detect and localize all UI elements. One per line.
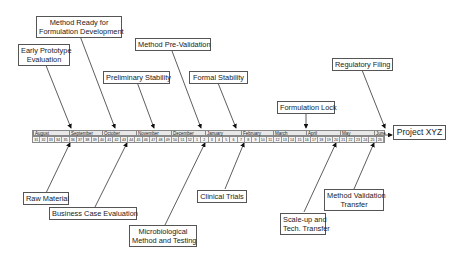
milestone-label: Method Validation [327, 191, 381, 200]
milestone-microbiological-method: Microbiological Method and Testing [129, 225, 197, 247]
milestone-label: Method Ready for [39, 18, 119, 27]
week-cell: 23 [355, 137, 362, 142]
week-cell: 37 [77, 137, 84, 142]
week-cell: 24 [362, 137, 369, 142]
week-cell: 17 [311, 137, 318, 142]
week-cell: 51 [179, 137, 186, 142]
week-cell: 12 [274, 137, 281, 142]
milestone-business-case-evaluation: Business Case Evaluation [49, 207, 137, 220]
week-cell: 46 [143, 137, 150, 142]
week-cell: 50 [172, 137, 179, 142]
milestone-regulatory-filing: Regulatory Filing [332, 58, 393, 71]
milestone-label: Method and Testing [132, 236, 194, 245]
milestone-label: Tech. Transfer [283, 224, 323, 233]
week-cell: 26 [377, 137, 384, 142]
milestone-method-pre-validation: Method Pre-Validation [135, 38, 211, 51]
milestone-label: Regulatory Filing [335, 60, 390, 69]
week-cell: 34 [55, 137, 62, 142]
week-cell: 43 [121, 137, 128, 142]
week-cell: 8 [245, 137, 252, 142]
milestone-label: Scale-up and [283, 215, 323, 224]
milestone-label: Preliminary Stability [106, 73, 167, 82]
week-cell: 21 [340, 137, 347, 142]
week-cell: 31 [33, 137, 40, 142]
milestone-label: Method Pre-Validation [138, 40, 208, 49]
week-row: 3132333435363738394041424344454647484950… [32, 136, 385, 143]
week-cell: 48 [157, 137, 164, 142]
milestone-formal-stability: Formal Stability [189, 71, 248, 84]
week-cell: 3 [209, 137, 216, 142]
milestone-label: Raw Material [26, 194, 66, 203]
milestone-label: Business Case Evaluation [52, 209, 134, 218]
week-cell: 11 [267, 137, 274, 142]
week-cell: 14 [289, 137, 296, 142]
week-cell: 2 [201, 137, 208, 142]
week-cell: 6 [230, 137, 237, 142]
week-cell: 7 [238, 137, 245, 142]
week-cell: 20 [333, 137, 340, 142]
week-cell: 33 [48, 137, 55, 142]
week-cell: 5 [223, 137, 230, 142]
milestone-clinical-trials: Clinical Trials [197, 190, 247, 203]
milestone-label: Early Prototype [21, 46, 67, 55]
week-cell: 39 [92, 137, 99, 142]
week-cell: 19 [326, 137, 333, 142]
milestone-method-validation-transfer: Method Validation Transfer [324, 189, 384, 211]
week-cell: 15 [296, 137, 303, 142]
week-cell: 36 [70, 137, 77, 142]
milestone-early-prototype-evaluation: Early Prototype Evaluation [18, 44, 70, 66]
week-cell: 40 [99, 137, 106, 142]
week-cell: 52 [187, 137, 194, 142]
milestone-label: Clinical Trials [200, 192, 244, 201]
milestone-method-ready: Method Ready for Formulation Development [36, 16, 122, 38]
milestone-preliminary-stability: Preliminary Stability [103, 71, 170, 84]
milestone-label: Transfer [327, 200, 381, 209]
week-cell: 38 [84, 137, 91, 142]
week-cell: 1 [194, 137, 201, 142]
week-cell: 9 [252, 137, 259, 142]
week-cell: 16 [304, 137, 311, 142]
project-label: Project XYZ [393, 125, 446, 140]
week-cell: 45 [135, 137, 142, 142]
milestone-formulation-lock: Formulation Lock [277, 101, 335, 114]
week-cell: 13 [282, 137, 289, 142]
week-cell: 18 [318, 137, 325, 142]
milestone-scale-up: Scale-up and Tech. Transfer [280, 213, 326, 235]
week-cell: 25 [369, 137, 376, 142]
milestone-label: Evaluation [21, 55, 67, 64]
week-cell: 47 [150, 137, 157, 142]
week-cell: 49 [165, 137, 172, 142]
week-cell: 44 [128, 137, 135, 142]
milestone-label: Formulation Lock [280, 103, 332, 112]
milestone-label: Formulation Development [39, 27, 119, 36]
milestone-label: Microbiological [132, 227, 194, 236]
milestone-raw-material: Raw Material [23, 192, 69, 205]
milestone-label: Formal Stability [192, 73, 245, 82]
week-cell: 35 [62, 137, 69, 142]
week-cell: 42 [113, 137, 120, 142]
week-cell: 22 [347, 137, 354, 142]
week-cell: 10 [260, 137, 267, 142]
week-cell: 4 [216, 137, 223, 142]
timeline: August September October November Decemb… [32, 130, 385, 144]
week-cell: 41 [106, 137, 113, 142]
week-cell: 32 [40, 137, 47, 142]
